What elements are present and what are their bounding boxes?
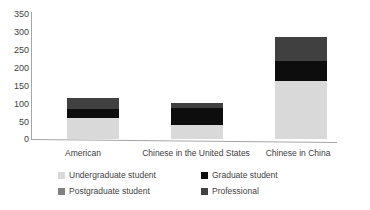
y-tick-250: 250 (3, 46, 29, 55)
legend-swatch-undergraduate-student (58, 172, 65, 179)
legend-item-graduate-student: Graduate student (201, 170, 278, 180)
y-tick-350: 350 (3, 10, 29, 19)
legend-label-postgraduate-student: Postgraduate student (69, 186, 150, 196)
bar-segment (275, 37, 327, 61)
legend-label-graduate-student: Graduate student (212, 170, 278, 180)
y-tick-200: 200 (3, 64, 29, 73)
legend-item-postgraduate-student: Postgraduate student (58, 186, 150, 196)
bar-segment (67, 98, 119, 109)
stacked-bar-chart: 350 300 250 200 150 100 50 0 American Ch… (0, 0, 370, 210)
legend-label-professional: Professional (212, 186, 259, 196)
y-tick-300: 300 (3, 28, 29, 37)
x-axis-line (31, 139, 337, 143)
legend-swatch-postgraduate-student (58, 188, 65, 195)
stacked-bar-chinese-in-china (275, 37, 327, 139)
legend-item-undergraduate-student: Undergraduate student (58, 170, 156, 180)
legend-item-professional: Professional (201, 186, 259, 196)
legend-swatch-professional (201, 188, 208, 195)
x-label-american: American (41, 148, 125, 158)
legend-label-undergraduate-student: Undergraduate student (69, 170, 156, 180)
y-tick-100: 100 (3, 100, 29, 109)
x-label-chinese-in-china: Chinese in China (253, 148, 343, 158)
bar-group-chinese-in-china (275, 10, 327, 139)
bar-segment (67, 109, 119, 118)
bar-segment (275, 81, 327, 139)
y-tick-0: 0 (3, 135, 29, 144)
bar-group-american (67, 10, 119, 139)
y-tick-150: 150 (3, 82, 29, 91)
bar-segment (171, 125, 223, 139)
chart-legend: Undergraduate student Graduate student P… (0, 169, 370, 203)
x-label-chinese-in-the-united-states: Chinese in the United States (131, 148, 261, 158)
stacked-bar-chinese-in-the-united-states (171, 103, 223, 139)
y-tick-50: 50 (3, 118, 29, 127)
legend-swatch-graduate-student (201, 172, 208, 179)
bar-segment (275, 61, 327, 81)
bars-layer (31, 10, 341, 139)
bar-segment (171, 108, 223, 126)
bar-segment (67, 118, 119, 139)
stacked-bar-american (67, 98, 119, 139)
bar-group-chinese-in-the-united-states (171, 10, 223, 139)
